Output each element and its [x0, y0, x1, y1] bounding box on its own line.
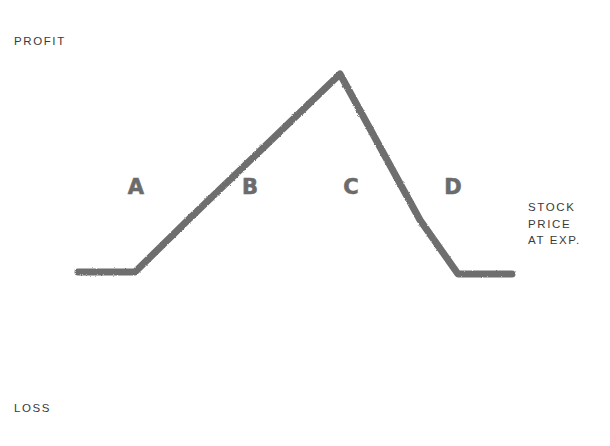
x-axis-title-line1: STOCK: [528, 201, 575, 213]
strike-label-b: B: [235, 175, 265, 199]
y-axis-loss-label: LOSS: [14, 400, 51, 417]
y-axis-profit-label: PROFIT: [14, 33, 66, 50]
x-axis-title-line2: PRICE: [528, 218, 571, 230]
payoff-curve: [78, 74, 512, 274]
strike-label-c: C: [336, 175, 366, 199]
strike-label-a: A: [121, 175, 151, 199]
strike-label-d: D: [438, 175, 468, 199]
payoff-diagram-figure: PROFIT LOSS STOCKPRICEAT EXP. A B C D: [0, 0, 610, 446]
x-axis-title: STOCKPRICEAT EXP.: [528, 199, 581, 249]
plot-canvas: [0, 0, 610, 446]
x-axis-title-line3: AT EXP.: [528, 234, 581, 246]
